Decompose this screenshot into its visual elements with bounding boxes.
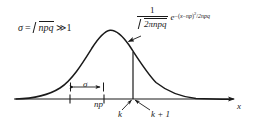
k-plus-one-pointer-arrow	[135, 100, 150, 110]
sqrt-2pinpq: 2πnpq	[139, 17, 167, 29]
density-fraction: 1 2πnpq	[137, 6, 168, 29]
fraction-numerator: 1	[147, 6, 158, 16]
exponential-exponent: −(x−np)2/2npq	[175, 12, 210, 19]
x-axis-label: x	[237, 102, 241, 111]
mean-tick-label: np	[94, 100, 103, 109]
radicand-npq: npq	[39, 21, 54, 33]
sigma-span-label: σ	[83, 80, 87, 89]
fraction-denominator: 2πnpq	[137, 17, 168, 29]
gaussian-curve	[16, 30, 232, 99]
k-pointer-arrow	[122, 100, 131, 110]
sqrt-npq: npq	[34, 20, 54, 33]
radicand-2pinpq: 2πnpq	[144, 18, 167, 29]
normal-approximation-figure: σ=npq≫1 1 2πnpq e−(x−np)2/2npq σ np k k …	[0, 0, 253, 129]
gaussian-density-formula: 1 2πnpq e−(x−np)2/2npq	[137, 6, 210, 29]
exponent-denominator: 2npq	[198, 13, 210, 19]
equals-sign: =	[25, 22, 31, 33]
sigma-symbol: σ	[18, 22, 23, 33]
much-greater-than-sign: ≫	[56, 22, 65, 33]
density-formula-pointer-arrow	[129, 36, 142, 42]
one-literal: 1	[67, 22, 72, 33]
sigma-condition-formula: σ=npq≫1	[18, 20, 72, 33]
k-label: k	[118, 110, 122, 119]
k-plus-one-label: k + 1	[151, 110, 170, 119]
